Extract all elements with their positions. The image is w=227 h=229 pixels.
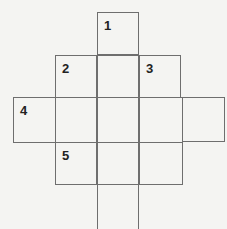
- clue-number: 5: [62, 148, 69, 163]
- cell-r2-c2[interactable]: [97, 97, 139, 143]
- cell-r3-c1[interactable]: 5: [55, 142, 97, 185]
- cell-r2-c3[interactable]: [139, 97, 183, 143]
- cell-r1-c3[interactable]: 3: [139, 55, 181, 98]
- cell-r2-c1[interactable]: [55, 97, 97, 143]
- cell-r0-c2[interactable]: 1: [97, 12, 139, 55]
- clue-number: 3: [146, 61, 153, 76]
- clue-number: 2: [62, 61, 69, 76]
- cell-r1-c2[interactable]: [97, 55, 139, 98]
- crossword-grid: 1 2 3 4 5: [0, 0, 227, 229]
- cell-r2-c0[interactable]: 4: [13, 97, 56, 143]
- cell-r2-c4[interactable]: [182, 97, 225, 142]
- clue-number: 4: [20, 103, 27, 118]
- cell-r3-c3[interactable]: [139, 142, 183, 185]
- cell-r3-c2[interactable]: [97, 142, 139, 185]
- cell-r4-c2[interactable]: [97, 184, 139, 229]
- cell-r1-c1[interactable]: 2: [55, 55, 97, 98]
- clue-number: 1: [104, 18, 111, 33]
